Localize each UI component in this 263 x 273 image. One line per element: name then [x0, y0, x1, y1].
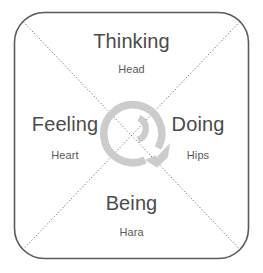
quadrant-subtitle-hips: Hips	[143, 150, 253, 161]
four-quadrant-diagram: Thinking Head Feeling Heart Doing Hips B…	[0, 0, 263, 273]
quadrant-subtitle-heart: Heart	[10, 150, 120, 161]
quadrant-title-thinking: Thinking	[0, 31, 263, 51]
quadrant-subtitle-hara: Hara	[0, 227, 263, 238]
quadrant-subtitle-head: Head	[0, 64, 263, 75]
quadrant-title-feeling: Feeling	[10, 114, 120, 134]
quadrant-title-being: Being	[0, 193, 263, 213]
quadrant-title-doing: Doing	[143, 114, 253, 134]
